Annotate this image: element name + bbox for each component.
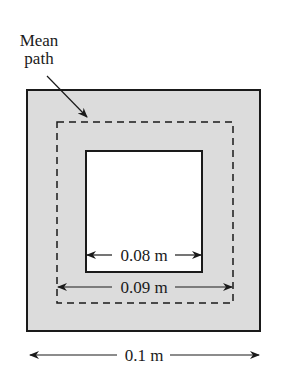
mean-path-label-line2: path [24,49,54,68]
mean-path-label-line1: Mean [20,31,59,50]
core-diagram: Mean path 0.08 m 0.09 m 0.1 m [0,0,291,377]
inner-width-label: 0.08 m [120,246,167,265]
diagram-canvas: Mean path 0.08 m 0.09 m 0.1 m [0,0,291,377]
outer-width-label: 0.1 m [125,346,164,365]
mean-path-width-label: 0.09 m [120,278,167,297]
